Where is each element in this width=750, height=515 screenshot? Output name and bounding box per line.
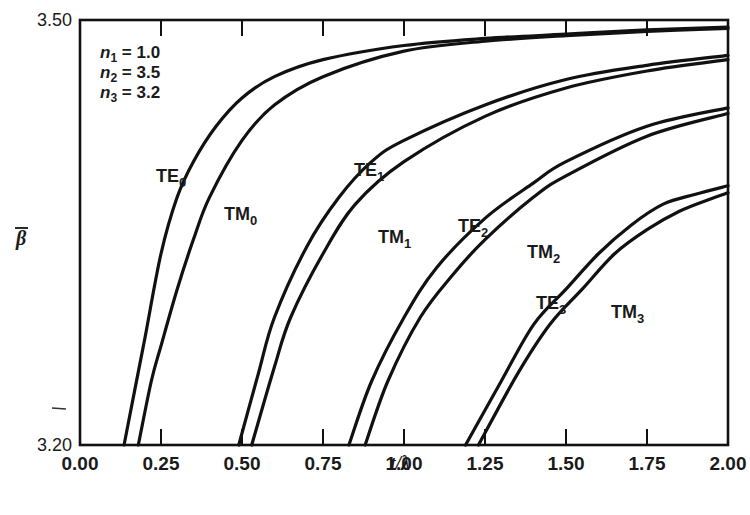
plot-frame (80, 20, 728, 445)
y-axis-title-text: β (15, 227, 27, 250)
x-axis-title: t/λ (390, 452, 410, 474)
x-tick-label: 1.75 (629, 453, 666, 474)
index-parameters: n1 = 1.0n2 = 3.5n3 = 3.2 (100, 43, 160, 105)
x-tick-label: 0.25 (143, 453, 180, 474)
param-n2: n2 = 3.5 (100, 63, 160, 85)
y-tick-label: 3.50 (37, 10, 72, 30)
label-tm3: TM3 (611, 302, 644, 326)
x-tick-label: 0.00 (62, 453, 99, 474)
curve-tm1 (252, 60, 728, 445)
label-tm0: TM0 (224, 204, 257, 228)
param-n3: n3 = 3.2 (100, 83, 160, 105)
axes-box (80, 20, 728, 445)
y-axis-title: β (15, 227, 28, 250)
x-tick-label: 1.50 (548, 453, 585, 474)
curve-tm3 (479, 193, 728, 445)
x-axis-ticks (161, 20, 647, 445)
label-te1: TE1 (354, 160, 384, 184)
mode-curves (124, 27, 728, 445)
y-axis-tick-labels: 3.203.50 (37, 10, 72, 455)
x-tick-label: 2.00 (710, 453, 747, 474)
curve-te2 (349, 108, 728, 445)
label-te0: TE0 (156, 166, 186, 190)
chart-figure: 0.000.250.500.751.001.251.501.752.00 3.2… (0, 0, 750, 515)
x-tick-label: 0.50 (224, 453, 261, 474)
curve-tm0 (138, 29, 728, 446)
curve-te1 (239, 55, 728, 445)
label-tm1: TM1 (378, 227, 411, 251)
x-tick-label: 0.75 (305, 453, 342, 474)
x-tick-label: 1.25 (467, 453, 504, 474)
curve-tm2 (365, 114, 728, 446)
label-tm2: TM2 (527, 242, 560, 266)
param-n1: n1 = 1.0 (100, 43, 160, 65)
y-tick-label: 3.20 (37, 435, 72, 455)
y-axis-minor-dash (52, 408, 66, 409)
curve-te3 (466, 186, 728, 445)
